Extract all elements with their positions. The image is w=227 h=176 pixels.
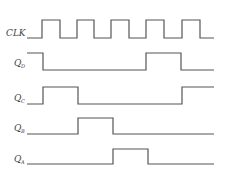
signal-qb: Q B: [14, 118, 214, 134]
signal-label-qc-subscript: C: [21, 98, 25, 104]
signal-qa: Q A: [14, 149, 214, 165]
timing-diagram-canvas: CLK Q D Q C Q B Q A: [0, 0, 227, 176]
signal-qd: Q D: [14, 53, 214, 70]
qb-waveform: [27, 118, 214, 134]
clk-waveform: [27, 20, 214, 38]
qd-waveform: [27, 53, 214, 70]
signal-clk: CLK: [6, 20, 214, 38]
signal-label-qd-subscript: D: [20, 63, 25, 69]
signal-label-qb-subscript: B: [20, 128, 25, 134]
qc-waveform: [27, 87, 214, 104]
qa-waveform: [27, 149, 214, 164]
signal-qc: Q C: [14, 87, 214, 104]
signal-label-clk: CLK: [6, 28, 27, 38]
signal-label-qa-subscript: A: [20, 159, 25, 165]
timing-diagram: CLK Q D Q C Q B Q A: [0, 0, 227, 176]
